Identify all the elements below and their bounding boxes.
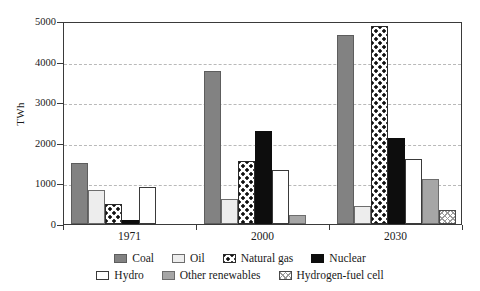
legend-swatch-icon bbox=[96, 271, 109, 280]
legend-row-2: HydroOther renewablesHydrogen-fuel cell bbox=[0, 267, 480, 284]
legend-item-coal[interactable]: Coal bbox=[114, 253, 154, 265]
legend-item-natural-gas[interactable]: Natural gas bbox=[223, 253, 294, 265]
x-tick-label-2030: 2030 bbox=[361, 231, 431, 243]
legend-item-other-renewables[interactable]: Other renewables bbox=[162, 270, 261, 282]
bar-hydro-1971 bbox=[139, 187, 156, 224]
y-tick-label: 2000 bbox=[8, 139, 56, 150]
bar-group-1971 bbox=[71, 23, 190, 224]
chart-legend: CoalOilNatural gasNuclear HydroOther ren… bbox=[0, 250, 480, 284]
legend-item-oil[interactable]: Oil bbox=[172, 253, 205, 265]
bar-hydro-2000 bbox=[272, 170, 289, 224]
bar-coal-2000 bbox=[204, 71, 221, 224]
x-tick-mark bbox=[196, 225, 197, 230]
legend-swatch-icon bbox=[114, 254, 127, 263]
chart-figure: TWh 010002000300040005000 197120002030 C… bbox=[0, 0, 480, 291]
x-tick-mark bbox=[329, 225, 330, 230]
legend-item-label: Hydro bbox=[114, 270, 143, 282]
x-tick-label-2000: 2000 bbox=[228, 231, 298, 243]
bar-nuclear-1971 bbox=[122, 220, 139, 224]
plot-area bbox=[63, 22, 462, 225]
y-tick-label: 3000 bbox=[8, 98, 56, 109]
bar-natural-gas-1971 bbox=[105, 204, 122, 224]
y-tick-label: 1000 bbox=[8, 179, 56, 190]
bar-natural-gas-2030 bbox=[371, 26, 388, 224]
bar-group-2030 bbox=[337, 23, 456, 224]
legend-swatch-icon bbox=[172, 254, 185, 263]
legend-item-hydro[interactable]: Hydro bbox=[96, 270, 143, 282]
y-tick-label: 5000 bbox=[8, 17, 56, 28]
bar-other-renewables-2030 bbox=[422, 179, 439, 224]
legend-item-label: Natural gas bbox=[241, 253, 294, 265]
bar-natural-gas-2000 bbox=[238, 161, 255, 224]
legend-swatch-icon bbox=[311, 254, 324, 263]
legend-swatch-icon bbox=[279, 271, 292, 280]
bar-oil-1971 bbox=[88, 190, 105, 225]
legend-item-label: Oil bbox=[190, 253, 205, 265]
legend-swatch-icon bbox=[223, 254, 236, 263]
x-tick-label-1971: 1971 bbox=[95, 231, 165, 243]
y-tick-label: 4000 bbox=[8, 58, 56, 69]
x-tick-mark bbox=[63, 225, 64, 230]
legend-swatch-icon bbox=[162, 271, 175, 280]
bar-coal-1971 bbox=[71, 163, 88, 224]
bar-hydro-2030 bbox=[405, 159, 422, 224]
legend-item-label: Hydrogen-fuel cell bbox=[297, 270, 384, 282]
bar-group-2000 bbox=[204, 23, 323, 224]
legend-row-1: CoalOilNatural gasNuclear bbox=[0, 250, 480, 267]
bar-oil-2000 bbox=[221, 199, 238, 224]
legend-item-label: Nuclear bbox=[329, 253, 365, 265]
legend-item-hydrogen-fuel-cell[interactable]: Hydrogen-fuel cell bbox=[279, 270, 384, 282]
legend-item-label: Other renewables bbox=[180, 270, 261, 282]
bar-oil-2030 bbox=[354, 206, 371, 224]
bar-coal-2030 bbox=[337, 35, 354, 224]
y-tick-label: 0 bbox=[8, 220, 56, 231]
bar-other-renewables-2000 bbox=[289, 215, 306, 224]
bar-nuclear-2000 bbox=[255, 131, 272, 224]
bar-nuclear-2030 bbox=[388, 138, 405, 224]
legend-item-nuclear[interactable]: Nuclear bbox=[311, 253, 365, 265]
x-tick-mark bbox=[462, 225, 463, 230]
bar-hydrogen-fuel-cell-2030 bbox=[439, 210, 456, 224]
legend-item-label: Coal bbox=[132, 253, 154, 265]
